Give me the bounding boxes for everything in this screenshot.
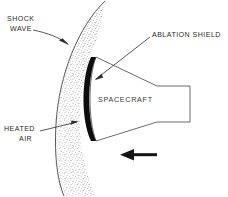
heated-air-label-line2: AIR (19, 135, 32, 143)
heated-air-label-line1: HEATED (4, 125, 35, 133)
velocity-direction-arrow (120, 149, 157, 160)
shock-wave-label-line2: WAVE (10, 25, 32, 33)
shock-wave-leader (33, 30, 69, 45)
ablation-shield-label: ABLATION SHIELD (152, 31, 221, 39)
reentry-diagram: SHOCK WAVE ABLATION SHIELD HEATED AIR SP… (0, 0, 228, 197)
spacecraft-label: SPACECRAFT (98, 95, 153, 104)
shock-wave-label-line1: SHOCK (7, 15, 34, 23)
diagram-canvas: SHOCK WAVE ABLATION SHIELD HEATED AIR SP… (0, 0, 228, 197)
